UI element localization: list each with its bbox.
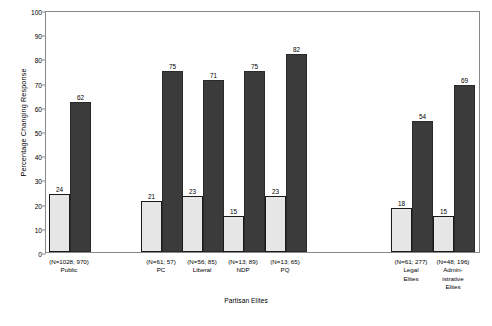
bar-dark: 62 [70, 102, 91, 252]
y-axis-tick-label: 50 [35, 130, 42, 137]
bar-light: 15 [433, 216, 454, 252]
y-axis-tick-mark [42, 254, 46, 255]
y-axis-tick-mark [42, 108, 46, 109]
bar-value-label: 54 [419, 113, 426, 120]
group-sample-size: (N=48; 196) [425, 258, 481, 266]
bar-value-label: 75 [169, 63, 176, 70]
y-axis-tick-mark [42, 133, 46, 134]
bar-value-label: 18 [398, 200, 405, 207]
bar-dark: 69 [454, 85, 475, 252]
y-axis-tick-mark [42, 229, 46, 230]
y-axis-tick-label: 10 [35, 226, 42, 233]
bar-value-label: 23 [272, 188, 279, 195]
bar-value-label: 82 [293, 46, 300, 53]
y-axis-tick-label: 40 [35, 154, 42, 161]
y-axis-tick-mark [42, 205, 46, 206]
y-axis-tick-label: 60 [35, 105, 42, 112]
y-axis-tick-label: 100 [31, 9, 42, 16]
bar-value-label: 15 [440, 208, 447, 215]
bar-chart: Percentage Changing Response 01020304050… [0, 0, 492, 326]
group-sample-size: (N=13; 65) [257, 258, 313, 266]
bar-light: 23 [182, 196, 203, 252]
x-axis-group-label: (N=1028; 970)Public [41, 258, 97, 275]
y-axis-tick-label: 20 [35, 202, 42, 209]
x-axis-title: Partisan Elites [0, 297, 492, 304]
bar-light: 23 [265, 196, 286, 252]
group-name: PQ [257, 266, 313, 274]
x-axis-group-label: (N=48; 196)Admin- istrative Elites [425, 258, 481, 292]
y-axis-tick-label: 80 [35, 57, 42, 64]
bar-light: 21 [141, 201, 162, 252]
bar-value-label: 62 [77, 94, 84, 101]
bar-light: 24 [49, 194, 70, 252]
bar-value-label: 21 [148, 193, 155, 200]
bar-value-label: 75 [251, 63, 258, 70]
group-name: Public [41, 266, 97, 274]
y-axis-tick-mark [42, 84, 46, 85]
y-axis-tick-label: 70 [35, 81, 42, 88]
y-axis-tick-mark [42, 60, 46, 61]
bar-dark: 75 [244, 71, 265, 253]
group-sample-size: (N=1028; 970) [41, 258, 97, 266]
y-axis-tick-mark [42, 12, 46, 13]
bar-dark: 82 [286, 54, 307, 252]
y-axis-tick-label: 30 [35, 178, 42, 185]
bar-light: 18 [391, 208, 412, 252]
bar-dark: 54 [412, 121, 433, 252]
y-axis-tick-mark [42, 36, 46, 37]
y-axis-title: Percentage Changing Response [19, 18, 28, 228]
bar-value-label: 15 [230, 208, 237, 215]
y-axis-tick-mark [42, 181, 46, 182]
bar-dark: 75 [162, 71, 183, 253]
bar-dark: 71 [203, 80, 224, 252]
bar-value-label: 24 [56, 186, 63, 193]
bar-light: 15 [223, 216, 244, 252]
y-axis-tick-label: 90 [35, 33, 42, 40]
bar-value-label: 23 [189, 188, 196, 195]
plot-area: 0102030405060708090100246221752371157523… [45, 11, 480, 253]
bar-value-label: 71 [210, 72, 217, 79]
bar-value-label: 69 [461, 77, 468, 84]
group-name: Admin- istrative Elites [425, 266, 481, 291]
x-axis-group-label: (N=13; 65)PQ [257, 258, 313, 275]
y-axis-tick-mark [42, 157, 46, 158]
